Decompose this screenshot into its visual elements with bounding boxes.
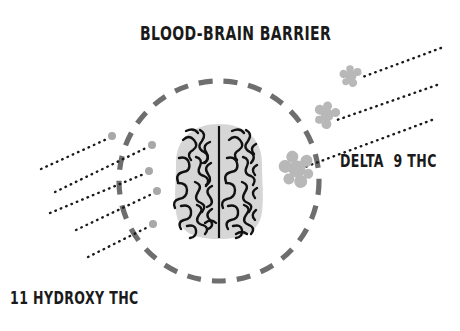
hydroxy-particle-5 (149, 220, 157, 228)
hydroxy-particle-4 (153, 187, 161, 195)
hydroxy-thc-label: 11 HYDROXY THC (10, 288, 139, 308)
brain-illustration (174, 124, 263, 239)
delta9-molecule-group (276, 64, 364, 192)
hydroxy-arrow-1 (41, 139, 107, 169)
hydroxy-arrow-4 (76, 194, 152, 230)
hydroxy-particle-1 (108, 132, 116, 140)
page-title: BLOOD-BRAIN BARRIER (140, 22, 331, 44)
delta9-molecule-mid (312, 99, 342, 131)
hydroxy-arrow-3 (50, 174, 144, 213)
delta9-thc-label: DELTA 9 THC (340, 151, 437, 171)
delta9-molecule-small (338, 64, 363, 89)
delta9-arrow-1 (360, 48, 441, 78)
hydroxy-particle-group (108, 132, 161, 228)
delta9-arrow-2 (337, 85, 437, 120)
hydroxy-arrow-5 (88, 227, 148, 257)
diagram-canvas: BLOOD-BRAIN BARRIER DELTA 9 THC 11 HYDRO… (0, 0, 460, 331)
hydroxy-particle-2 (148, 141, 156, 149)
delta9-molecule-large (276, 147, 318, 192)
hydroxy-particle-3 (145, 167, 153, 175)
hydroxy-arrow-2 (55, 148, 146, 192)
